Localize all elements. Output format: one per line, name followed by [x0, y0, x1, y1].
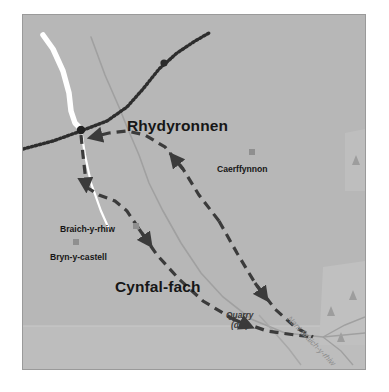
settlement-label-cynfal-fach: Cynfal-fach [115, 279, 201, 295]
route-arrow-north-mid [173, 157, 183, 169]
main-road-south [81, 129, 109, 229]
feature-label-quarry-status: (dis) [226, 321, 253, 331]
map-graphics-layer [23, 15, 365, 369]
map-canvas[interactable]: Rhydyronnen Cynfal-fach Caerffynnon Brai… [22, 14, 366, 370]
railway-station-marker-rhydyronnen[interactable] [77, 126, 85, 134]
place-label-caerffynnon: Caerffynnon [217, 165, 268, 174]
building-marker-bryn-y-castell[interactable] [73, 239, 79, 245]
route-segment-north-leg[interactable] [93, 131, 219, 221]
woodland-patch-south [319, 261, 365, 345]
building-marker-caerffynnon[interactable] [249, 149, 255, 155]
feature-label-quarry: Quarry (dis) [226, 311, 253, 330]
railway-halt-marker[interactable] [160, 59, 167, 66]
main-road-north [43, 35, 81, 129]
settlement-label-rhydyronnen: Rhydyronnen [127, 118, 228, 134]
place-label-bryn-y-castell: Bryn-y-castell [50, 253, 107, 262]
route-arrow-south-west [139, 229, 149, 243]
building-marker-braich-y-rhiw[interactable] [133, 223, 139, 229]
place-label-braich-y-rhiw: Braich-y-rhiw [60, 225, 115, 234]
route-arrow-east-descent [255, 283, 265, 297]
